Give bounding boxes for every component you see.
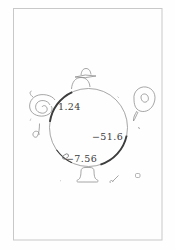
contour-label-1-24: 1.24 <box>58 101 81 112</box>
small-ring-contour <box>136 174 141 178</box>
figure-frame <box>14 9 163 241</box>
d-squiggle-contour <box>33 124 40 138</box>
contour-plot-canvas: 1.24 −51.6 −7.56 <box>0 0 175 250</box>
right-lobe-outer-contour <box>134 87 155 112</box>
right-dot <box>139 127 140 129</box>
contour-plot-figure: 1.24 −51.6 −7.56 <box>0 0 175 250</box>
contour-label-minus-51-6: −51.6 <box>92 131 123 142</box>
top-hat-dome-contour <box>81 69 91 76</box>
bottom-base-contour <box>77 168 98 183</box>
slash-fragment-contour <box>110 176 119 184</box>
right-lobe-inner-contour <box>141 94 148 102</box>
bottom-left-dot <box>60 181 61 182</box>
contour-label-minus-7-56: −7.56 <box>66 153 97 164</box>
left-tick-mark <box>30 119 31 122</box>
right-lobe-tail-contour <box>133 111 138 121</box>
left-lobe-tail-contour <box>30 91 33 97</box>
left-lobe-inner-contour <box>36 101 50 114</box>
upper-right-dot <box>118 97 120 99</box>
top-bump-contour <box>72 78 91 90</box>
